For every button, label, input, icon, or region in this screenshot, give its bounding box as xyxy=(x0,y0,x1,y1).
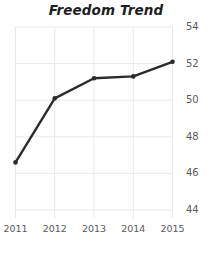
data-point-marker xyxy=(170,59,175,64)
y-axis-tick-label: 48 xyxy=(186,132,199,142)
data-point-marker xyxy=(13,160,18,165)
y-axis-tick-label: 54 xyxy=(186,22,199,32)
data-point-marker xyxy=(52,96,57,101)
x-axis-tick-label: 2011 xyxy=(0,224,36,234)
x-axis-tick-label: 2013 xyxy=(74,224,114,234)
y-axis-tick-label: 44 xyxy=(186,205,199,215)
y-axis-tick-label: 46 xyxy=(186,168,199,178)
data-point-marker xyxy=(131,74,136,79)
x-axis-tick-label: 2012 xyxy=(35,224,75,234)
chart-container: Freedom Trend 545250484644 2011201220132… xyxy=(0,0,212,254)
data-point-marker xyxy=(92,76,97,81)
y-axis-tick-label: 50 xyxy=(186,95,199,105)
x-axis-tick-label: 2015 xyxy=(153,224,193,234)
y-axis-tick-label: 52 xyxy=(186,59,199,69)
x-axis-tick-label: 2014 xyxy=(113,224,153,234)
line-chart-plot xyxy=(0,0,212,254)
